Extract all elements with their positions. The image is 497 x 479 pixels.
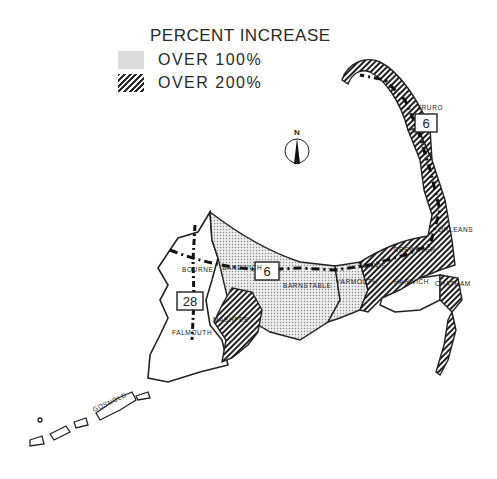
town-label-dennis: DENNIS: [358, 262, 386, 269]
route-shield-28: 28: [177, 292, 203, 310]
svg-text:6: 6: [263, 264, 270, 279]
north-arrow-icon: N: [285, 128, 309, 164]
town-label-mashpee: MASHPEE: [213, 316, 249, 323]
town-label-barnstable: BARNSTABLE: [283, 282, 332, 289]
town-label-brewster: BREWSTER: [394, 246, 436, 253]
monomoy-island: [436, 312, 456, 375]
town-label-harwich: HARWICH: [394, 278, 429, 285]
svg-text:N: N: [294, 128, 300, 137]
elizabeth-islands: [30, 392, 150, 446]
cape-cod-map: 6 6 28 N TRURO ORLEANS BREWSTER DENNIS H…: [0, 0, 497, 479]
town-label-falmouth: FALMOUTH: [172, 329, 212, 336]
svg-text:28: 28: [183, 294, 197, 309]
town-label-chatham: CHATHAM: [435, 280, 471, 287]
town-label-orleans: ORLEANS: [438, 226, 473, 233]
town-label-truro: TRURO: [417, 104, 443, 111]
svg-text:6: 6: [422, 116, 429, 131]
town-label-bourne: BOURNE: [182, 266, 213, 273]
route-shield-6-truro: 6: [415, 114, 437, 132]
town-label-yarmouth: YARMOUTH: [336, 278, 378, 285]
town-label-sandwich: SANDWICH: [222, 264, 262, 271]
